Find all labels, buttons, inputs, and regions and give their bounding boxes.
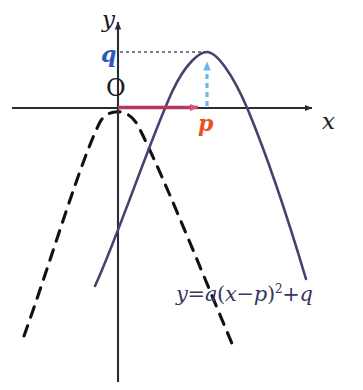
equation-shift-v: q (300, 282, 313, 306)
equation-shift-h: p (254, 282, 267, 306)
origin-label: O (106, 76, 126, 100)
x-axis-label: x (322, 110, 335, 133)
equation-minus: − (237, 282, 254, 306)
equation-open-paren: ( (217, 282, 225, 306)
p-value-label: p (198, 112, 213, 134)
equation-label: y=a(x−p)2+q (176, 283, 313, 305)
equation-coefficient: a (205, 282, 217, 306)
q-value-label: q (101, 43, 116, 65)
solid-shifted-parabola (95, 52, 306, 286)
equation-close-paren: ) (267, 282, 275, 306)
graph-canvas (0, 0, 363, 390)
equation-equals: = (188, 282, 205, 306)
dashed-reference-parabola (24, 112, 233, 346)
equation-variable: x (225, 282, 237, 306)
equation-lhs: y (176, 282, 188, 306)
parabola-figure: y x O q p y=a(x−p)2+q (0, 0, 363, 390)
y-axis-label: y (102, 8, 115, 31)
equation-plus: + (282, 282, 299, 306)
